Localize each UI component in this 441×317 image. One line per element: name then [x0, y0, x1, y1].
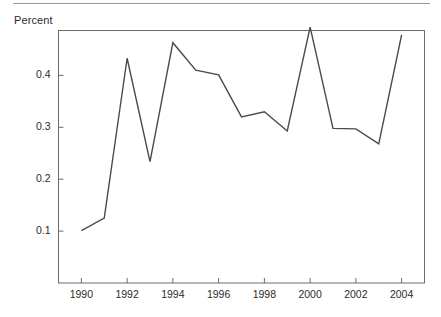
x-tick-label: 1994 [153, 289, 193, 300]
x-tick-label: 1992 [107, 289, 147, 300]
x-axis-ticks [81, 278, 401, 283]
x-tick-label: 2004 [382, 289, 422, 300]
x-tick-label: 1990 [61, 289, 101, 300]
line-chart-plot [0, 0, 441, 317]
y-tick-label: 0.3 [21, 121, 51, 132]
y-axis-ticks [59, 75, 64, 231]
chart-figure: Percent 0.10.20.30.4 1990199219941996199… [0, 0, 441, 317]
x-tick-label: 2000 [290, 289, 330, 300]
x-tick-label: 1998 [244, 289, 284, 300]
y-tick-label: 0.2 [21, 173, 51, 184]
series-line-percent [81, 27, 401, 230]
x-tick-label: 1996 [199, 289, 239, 300]
y-tick-label: 0.1 [21, 225, 51, 236]
y-tick-label: 0.4 [21, 69, 51, 80]
data-series-layer [81, 27, 401, 230]
x-tick-label: 2002 [336, 289, 376, 300]
